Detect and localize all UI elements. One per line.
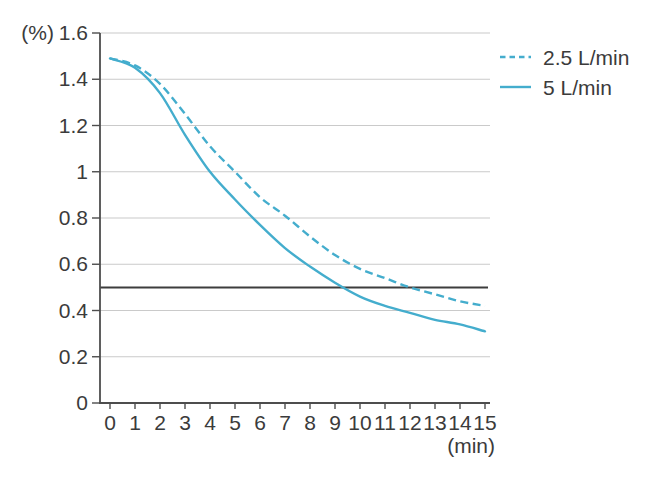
y-tick-label: 1.6 xyxy=(59,21,88,44)
x-tick-label: 1 xyxy=(129,411,141,434)
x-tick-label: 13 xyxy=(423,411,446,434)
x-tick-label: 2 xyxy=(154,411,166,434)
legend-label: 2.5 L/min xyxy=(543,47,629,68)
x-axis-unit-label: (min) xyxy=(447,434,495,457)
y-axis-unit-label: (%) xyxy=(21,21,54,44)
x-tick-label: 11 xyxy=(374,411,396,434)
solid-line-swatch-icon xyxy=(499,84,532,90)
y-tick-label: 0.8 xyxy=(59,206,88,229)
x-tick-label: 4 xyxy=(204,411,216,434)
y-tick-label: 0 xyxy=(76,391,88,414)
legend-label: 5 L/min xyxy=(543,77,612,98)
series-line-2-5-l-min xyxy=(110,58,485,305)
x-tick-label: 6 xyxy=(254,411,266,434)
x-tick-label: 12 xyxy=(398,411,421,434)
dashed-line-swatch-icon xyxy=(499,54,532,60)
x-tick-label: 10 xyxy=(348,411,371,434)
x-tick-label: 7 xyxy=(279,411,291,434)
legend-item-2-5-lmin: 2.5 L/min xyxy=(499,42,629,72)
x-tick-label: 15 xyxy=(473,411,496,434)
y-tick-label: 1.4 xyxy=(59,67,89,90)
legend: 2.5 L/min 5 L/min xyxy=(499,42,629,102)
y-tick-label: 1 xyxy=(76,160,88,183)
x-tick-label: 9 xyxy=(329,411,341,434)
y-tick-label: 0.2 xyxy=(59,345,88,368)
y-tick-label: 0.6 xyxy=(59,252,88,275)
x-tick-label: 14 xyxy=(448,411,472,434)
x-tick-label: 5 xyxy=(229,411,241,434)
series-line-5-l-min xyxy=(110,58,485,331)
x-tick-label: 3 xyxy=(179,411,191,434)
y-tick-label: 0.4 xyxy=(59,299,89,322)
legend-item-5-lmin: 5 L/min xyxy=(499,72,629,102)
x-tick-label: 0 xyxy=(104,411,116,434)
y-tick-label: 1.2 xyxy=(59,114,88,137)
x-tick-label: 8 xyxy=(304,411,316,434)
chart-figure: (%) (min) 00.20.40.60.811.21.41.60123456… xyxy=(0,0,651,477)
